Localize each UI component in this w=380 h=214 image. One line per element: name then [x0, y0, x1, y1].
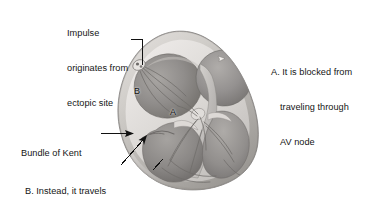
left-ventricle-chamber	[143, 123, 204, 183]
annotation-step-b: B. Instead, it travels through accessory…	[25, 163, 136, 214]
figure-label-a: A	[170, 107, 176, 117]
annotation-ectopic-line-2: originates from	[67, 63, 128, 75]
annotation-bundle-of-kent-line-1: Bundle of Kent	[21, 148, 82, 160]
annotation-step-b-line-1: B. Instead, it travels	[25, 186, 136, 198]
annotation-step-a-line-1: A. It is blocked from	[271, 67, 352, 79]
annotation-ectopic-line-1: Impulse	[67, 28, 128, 40]
annotation-ectopic-site: Impulse originates from ectopic site	[67, 5, 128, 133]
annotation-step-a-line-2: traveling through	[271, 102, 352, 114]
figure-canvas: B A Impulse originates from ectopic site…	[0, 0, 380, 214]
annotation-step-a: A. It is blocked from traveling through …	[271, 44, 352, 172]
figure-label-b: B	[134, 86, 140, 96]
annotation-step-a-line-3: AV node	[271, 137, 352, 149]
annotation-ectopic-line-3: ectopic site	[67, 98, 128, 110]
